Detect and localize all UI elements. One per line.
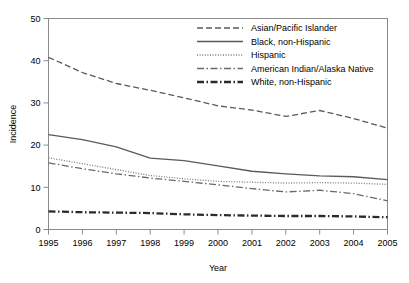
legend-label: American Indian/Alaska Native	[251, 64, 374, 74]
x-tick-label: 1996	[72, 238, 92, 248]
chart-figure: 01020304050 1995199619971998199920002001…	[0, 0, 409, 283]
y-tick-label: 20	[30, 140, 40, 150]
x-tick-label: 1998	[140, 238, 160, 248]
x-tick-label: 2002	[276, 238, 296, 248]
x-tick-label: 1997	[106, 238, 126, 248]
x-tick-label: 2003	[310, 238, 330, 248]
legend-label: Hispanic	[251, 50, 286, 60]
x-tick-label: 1995	[38, 238, 58, 248]
y-tick-label: 40	[30, 56, 40, 66]
y-axis-ticks: 01020304050	[30, 14, 48, 235]
y-tick-label: 30	[30, 98, 40, 108]
legend-label: White, non-Hispanic	[251, 77, 332, 87]
line-chart: 01020304050 1995199619971998199920002001…	[0, 0, 409, 283]
y-tick-label: 0	[35, 225, 40, 235]
y-tick-label: 50	[30, 14, 40, 24]
x-tick-label: 2000	[208, 238, 228, 248]
x-tick-label: 1999	[174, 238, 194, 248]
x-tick-label: 2004	[344, 238, 364, 248]
y-axis-title: Incidence	[8, 105, 18, 144]
x-axis-ticks: 1995199619971998199920002001200220032004…	[38, 230, 397, 248]
y-tick-label: 10	[30, 183, 40, 193]
plot-frame	[49, 19, 388, 230]
legend-label: Asian/Pacific Islander	[251, 23, 337, 33]
x-axis-title: Year	[209, 263, 227, 273]
plot-border	[49, 19, 388, 230]
legend-label: Black, non-Hispanic	[251, 37, 331, 47]
x-tick-label: 2005	[377, 238, 397, 248]
x-tick-label: 2001	[242, 238, 262, 248]
